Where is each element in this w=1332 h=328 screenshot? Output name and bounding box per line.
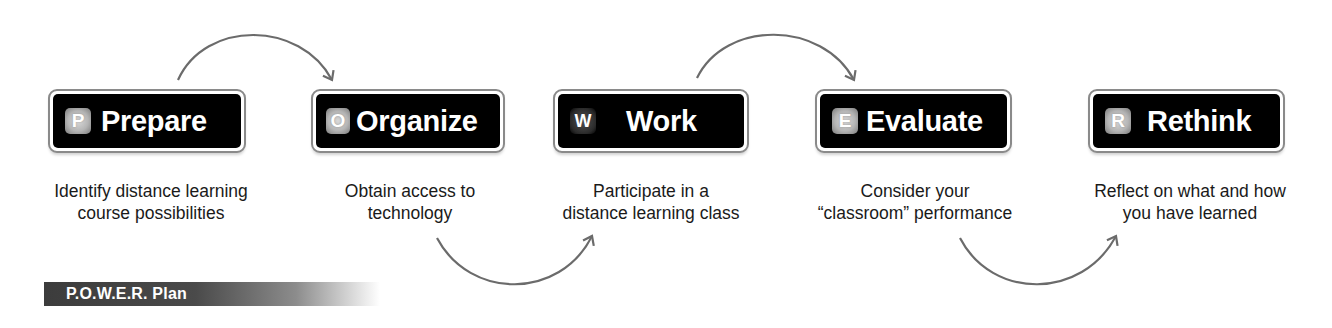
letter-p-icon: P — [65, 108, 91, 134]
step-evaluate: E Evaluate — [815, 89, 1012, 153]
step-organize: O Organize — [311, 89, 505, 153]
step-prepare-label: Prepare — [101, 105, 207, 138]
step-rethink-description: Reflect on what and how you have learned — [1062, 180, 1318, 224]
step-work: W Work — [553, 89, 749, 153]
step-rethink-label: Rethink — [1147, 105, 1251, 138]
step-rethink-inner: R Rethink — [1093, 94, 1280, 148]
step-organize-inner: O Organize — [316, 94, 500, 148]
step-prepare-description: Identify distance learning course possib… — [20, 180, 282, 224]
step-evaluate-description: Consider your “classroom” performance — [790, 180, 1040, 224]
step-work-label: Work — [626, 105, 697, 138]
step-organize-label: Organize — [356, 105, 478, 138]
letter-r-icon: R — [1105, 108, 1131, 134]
letter-w-icon: W — [570, 108, 596, 134]
letter-o-icon: O — [326, 108, 350, 134]
step-prepare: P Prepare — [48, 89, 246, 153]
step-evaluate-label: Evaluate — [866, 105, 983, 138]
step-organize-description: Obtain access to technology — [300, 180, 520, 224]
arrow-evaluate-to-rethink — [960, 236, 1116, 284]
step-rethink: R Rethink — [1088, 89, 1285, 153]
step-work-description: Participate in a distance learning class — [535, 180, 767, 224]
letter-e-icon: E — [832, 108, 858, 134]
arrow-prepare-to-organize — [178, 35, 332, 80]
step-work-inner: W Work — [558, 94, 744, 148]
step-evaluate-inner: E Evaluate — [820, 94, 1007, 148]
step-prepare-inner: P Prepare — [53, 94, 241, 148]
power-plan-title: P.O.W.E.R. Plan — [66, 285, 187, 303]
flow-arrows — [0, 0, 1332, 328]
arrow-work-to-evaluate — [697, 35, 854, 80]
power-plan-banner: P.O.W.E.R. Plan — [44, 282, 380, 306]
arrow-organize-to-work — [437, 236, 592, 284]
